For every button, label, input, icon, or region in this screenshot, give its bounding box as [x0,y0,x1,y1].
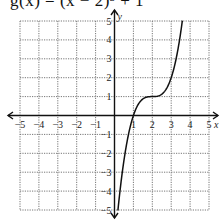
x-tick-label: 3 [169,119,174,130]
y-tick-label: −2 [101,148,112,159]
y-tick-label: −3 [101,167,112,178]
x-tick-label: 2 [150,119,155,130]
y-tick-label: −5 [101,205,112,216]
x-tick-label: −2 [71,119,82,130]
y-tick-label: 2 [107,72,112,83]
axes [8,10,218,218]
y-tick-label: 1 [107,91,112,102]
y-tick-label: −4 [101,186,112,197]
y-tick-label: 4 [107,34,112,45]
x-tick-label: −4 [34,119,45,130]
x-axis-label: x [213,119,219,130]
y-axis-label: y [117,11,123,22]
x-tick-label: −1 [90,119,101,130]
y-tick-label: 3 [107,53,112,64]
function-graph: −5−4−3−2−112345−5−4−3−2−112345xy [0,0,221,221]
x-tick-label: −5 [15,119,26,130]
x-tick-label: 4 [188,119,193,130]
y-tick-label: −1 [101,129,112,140]
tick-labels: −5−4−3−2−112345−5−4−3−2−112345xy [15,11,219,216]
x-tick-label: 5 [207,119,212,130]
x-tick-label: −3 [52,119,63,130]
y-tick-label: 5 [107,16,112,27]
